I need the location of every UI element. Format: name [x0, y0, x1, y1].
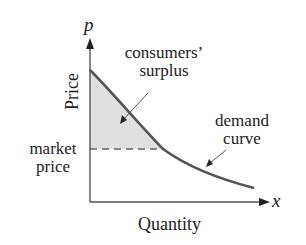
- market-price-label-line1: market: [18, 140, 88, 157]
- y-axis-symbol: p: [84, 16, 94, 33]
- demand-curve-arrow-icon: [206, 159, 213, 167]
- demand-curve-label-line2: curve: [202, 130, 282, 147]
- consumers-surplus-pointer: [123, 93, 148, 120]
- x-axis-symbol: x: [272, 192, 280, 209]
- y-axis-label: Price: [64, 73, 81, 110]
- market-price-label-line2: price: [18, 158, 88, 175]
- demand-curve-label-line1: demand: [202, 112, 282, 129]
- x-axis-arrow-icon: [259, 198, 270, 206]
- x-axis-label: Quantity: [138, 216, 201, 233]
- y-axis-arrow-icon: [86, 38, 94, 49]
- demand-curve-pointer: [210, 150, 226, 163]
- consumers-surplus-label-line1: consumers’: [108, 44, 220, 61]
- consumers-surplus-label-line2: surplus: [108, 62, 220, 79]
